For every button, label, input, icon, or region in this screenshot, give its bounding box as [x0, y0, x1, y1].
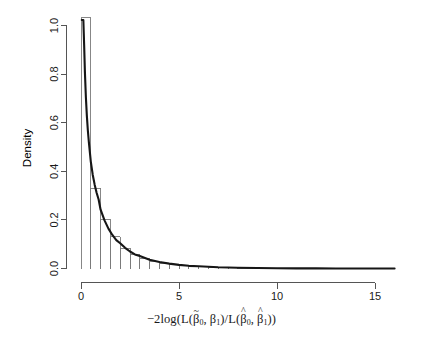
density-histogram-figure: 0.00.20.40.60.81.0 051015 Density −2log(… — [0, 0, 423, 342]
x-title-prefix: −2log(L( — [147, 312, 193, 326]
x-title-suffix: )) — [268, 312, 277, 326]
density-curve-group — [82, 20, 395, 268]
x-tick-label: 5 — [176, 290, 182, 302]
plot-canvas: 0.00.20.40.60.81.0 051015 — [0, 0, 423, 342]
x-tick-labels: 051015 — [78, 290, 381, 302]
y-tick-label: 0.2 — [48, 212, 60, 227]
histogram-bars — [81, 18, 257, 269]
x-tick-label: 15 — [369, 290, 381, 302]
x-tick-label: 10 — [271, 290, 283, 302]
x-axis — [81, 283, 375, 289]
tilde-accent-icon: ~ — [193, 306, 199, 316]
beta-hat-0: ^β — [240, 312, 246, 327]
y-tick-label: 0.4 — [48, 164, 60, 179]
x-title-mid: )/L( — [220, 312, 240, 326]
y-tick-labels: 0.00.20.40.60.81.0 — [48, 18, 60, 276]
y-tick-label: 0.6 — [48, 115, 60, 130]
beta-tilde-0: ~β — [193, 312, 199, 327]
y-tick-label: 1.0 — [48, 18, 60, 33]
chi-square-density-curve — [82, 20, 395, 268]
x-tick-label: 0 — [78, 290, 84, 302]
y-axis — [61, 26, 67, 269]
hat-accent-icon: ^ — [241, 306, 246, 316]
x-axis-title: −2log(L(~β0, β1)/L(^β0, ^β1)) — [147, 312, 276, 327]
y-tick-label: 0.0 — [48, 261, 60, 276]
y-axis-title: Density — [21, 129, 33, 167]
beta-hat-1: ^β — [257, 312, 263, 327]
histogram-bar — [101, 219, 111, 268]
hat-accent-icon: ^ — [258, 306, 263, 316]
y-tick-label: 0.8 — [48, 66, 60, 81]
